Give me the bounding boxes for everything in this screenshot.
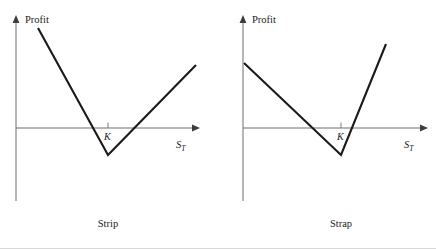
- strip-y-axis-label: Profit: [25, 14, 49, 25]
- strip-x-axis-arrow-icon: [192, 125, 200, 132]
- strap-strike-label: K: [336, 131, 345, 142]
- strip-payoff-line: [38, 28, 196, 155]
- strip-x-axis-label: ST: [176, 139, 186, 153]
- payoff-diagram-canvas: Profit K ST Strip Profit K ST Strap: [0, 0, 436, 249]
- strap-panel-caption: Strap: [330, 218, 352, 229]
- strap-x-axis-label: ST: [404, 139, 414, 153]
- strap-x-axis-arrow-icon: [420, 125, 428, 132]
- strip-y-axis-arrow-icon: [13, 15, 20, 23]
- strap-y-axis-arrow-icon: [240, 15, 247, 23]
- strip-strike-label: K: [103, 131, 112, 142]
- strip-x-axis-label-subscript: T: [181, 144, 186, 153]
- strap-x-axis-label-subscript: T: [409, 144, 414, 153]
- figure-root: Profit K ST Strip Profit K ST Strap: [0, 0, 436, 249]
- panel-strap: Profit K ST Strap: [240, 14, 428, 229]
- strap-payoff-line: [244, 44, 386, 155]
- strip-panel-caption: Strip: [98, 218, 118, 229]
- strap-y-axis-label: Profit: [252, 14, 276, 25]
- panel-strip: Profit K ST Strip: [13, 14, 200, 229]
